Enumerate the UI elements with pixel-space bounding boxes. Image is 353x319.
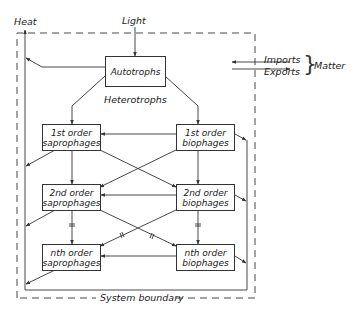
- imports-label: Imports: [264, 55, 300, 65]
- bion-node: nth order biophages: [176, 244, 235, 271]
- bio1-line1: 1st order: [185, 128, 226, 138]
- bion-line1: nth order: [185, 248, 227, 258]
- sapro2-line2: saprophages: [43, 198, 101, 208]
- sapro1-line1: 1st order: [51, 128, 92, 138]
- matter-label: Matter: [314, 61, 345, 71]
- sapron-line1: nth order: [51, 248, 93, 258]
- autotrophs-label: Autotrophs: [111, 67, 161, 77]
- bio1-line2: biophages: [182, 138, 229, 148]
- bio2-line1: 2nd order: [183, 188, 227, 198]
- sapro1-line2: saprophages: [43, 138, 101, 148]
- diagram-connectors: [0, 0, 353, 319]
- heterotrophs-label: Heterotrophs: [104, 95, 167, 105]
- sapro1-node: 1st order saprophages: [42, 124, 101, 151]
- sapro2-line1: 2nd order: [49, 188, 93, 198]
- system-boundary-label: System boundary: [100, 293, 184, 303]
- sapron-node: nth order saprophages: [42, 244, 101, 271]
- sapro2-node: 2nd order saprophages: [42, 184, 101, 211]
- heat-label: Heat: [14, 17, 37, 27]
- bio2-line2: biophages: [182, 198, 229, 208]
- sapron-line2: saprophages: [43, 258, 101, 268]
- bion-line2: biophages: [182, 258, 229, 268]
- exports-label: Exports: [264, 67, 300, 77]
- bio1-node: 1st order biophages: [176, 124, 235, 151]
- light-label: Light: [122, 16, 146, 26]
- bio2-node: 2nd order biophages: [176, 184, 235, 211]
- autotrophs-node: Autotrophs: [105, 56, 166, 87]
